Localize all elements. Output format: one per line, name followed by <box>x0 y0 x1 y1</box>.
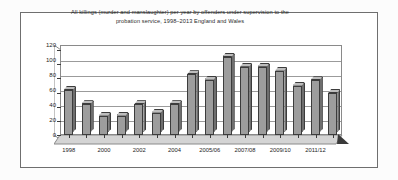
plot-area: 020406080100120 19982000200220042005/062… <box>36 40 354 150</box>
chart-figure: All killings (murder and manslaughter) p… <box>0 0 398 180</box>
y-axis-tick-label: 100 <box>36 57 56 63</box>
bar-side <box>267 64 270 132</box>
x-axis-tick <box>298 135 299 138</box>
bar-side <box>108 113 111 133</box>
bar-face <box>64 90 73 135</box>
x-axis-tick <box>86 135 87 138</box>
x-axis-tick-label: 2011/12 <box>305 147 326 153</box>
x-axis-tick-label: 2004 <box>168 147 181 153</box>
bar <box>205 80 214 136</box>
y-axis-tick-label: 80 <box>36 72 56 78</box>
bar-face <box>328 93 337 135</box>
bar-side <box>126 113 129 133</box>
bar-side <box>91 101 94 132</box>
bar <box>311 80 320 135</box>
x-axis-tick-label: 2007/08 <box>235 147 256 153</box>
bar-face <box>117 116 126 136</box>
bar <box>275 71 284 136</box>
bar-side <box>179 101 182 132</box>
bar-face <box>152 113 161 136</box>
x-axis-tick-label: 1998 <box>62 147 75 153</box>
y-axis-tick-label: 0 <box>36 132 56 138</box>
bar-side <box>143 101 146 132</box>
bar-side <box>302 83 305 133</box>
x-axis-tick <box>157 135 158 138</box>
bar-side <box>249 64 252 132</box>
bar-series <box>60 45 342 135</box>
bar <box>152 113 161 136</box>
y-axis-tick-label: 20 <box>36 117 56 123</box>
chart-title-line-2: probation service, 1998–2013 England and… <box>30 17 330 26</box>
x-axis-tick <box>175 135 176 138</box>
x-axis-tick <box>316 135 317 138</box>
bar-face <box>134 104 143 135</box>
bar-side <box>320 77 323 132</box>
bar <box>293 86 302 136</box>
bar <box>328 93 337 135</box>
bar-face <box>293 86 302 136</box>
x-axis-tick <box>192 135 193 138</box>
x-axis-tick-label: 2000 <box>98 147 111 153</box>
x-axis-tick <box>263 135 264 138</box>
bar-face <box>82 104 91 135</box>
x-axis-tick <box>227 135 228 138</box>
bar-side <box>73 87 76 132</box>
x-axis-tick <box>210 135 211 138</box>
bar-face <box>275 71 284 136</box>
x-axis: 19982000200220042005/062007/082009/10201… <box>60 135 342 136</box>
y-axis-tick-label: 40 <box>36 102 56 108</box>
x-axis-tick <box>245 135 246 138</box>
bar <box>170 104 179 135</box>
bar-side <box>232 54 235 132</box>
x-axis-tick <box>333 135 334 138</box>
bar <box>134 104 143 135</box>
bar-face <box>258 67 267 135</box>
x-axis-tick-label: 2005/06 <box>199 147 220 153</box>
x-axis-tick <box>122 135 123 138</box>
bar-face <box>223 57 232 135</box>
bar-face <box>187 74 196 135</box>
bar <box>99 116 108 136</box>
bar <box>82 104 91 135</box>
bar-side <box>214 77 217 133</box>
bar-face <box>240 67 249 135</box>
bar <box>258 67 267 135</box>
bar <box>117 116 126 136</box>
chart-title: All killings (murder and manslaughter) p… <box>30 8 330 26</box>
bar-side <box>337 90 340 132</box>
bar <box>240 67 249 135</box>
bar-face <box>311 80 320 135</box>
x-axis-tick <box>69 135 70 138</box>
chart-title-line-1: All killings (murder and manslaughter) p… <box>30 8 330 17</box>
y-axis-tick-label: 120 <box>36 42 56 48</box>
bar-side <box>196 71 199 132</box>
x-axis-tick <box>104 135 105 138</box>
bar-side <box>161 110 164 133</box>
y-axis-tick-label: 60 <box>36 87 56 93</box>
x-axis-tick-label: 2009/10 <box>270 147 291 153</box>
x-axis-tick-label: 2002 <box>133 147 146 153</box>
x-axis-tick <box>139 135 140 138</box>
bar-face <box>170 104 179 135</box>
bar-face <box>99 116 108 136</box>
bar-side <box>284 68 287 133</box>
bar <box>64 90 73 135</box>
bar <box>223 57 232 135</box>
bar-face <box>205 80 214 136</box>
bar <box>187 74 196 135</box>
x-axis-tick <box>280 135 281 138</box>
